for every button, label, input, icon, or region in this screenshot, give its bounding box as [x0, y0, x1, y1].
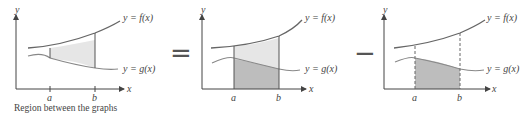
area-between-curves-diagram: y x a b y = f(x) y = g(x) y x a b y = f(…: [0, 0, 532, 119]
f-label: y = f(x): [122, 12, 154, 24]
f-label: y = f(x): [486, 12, 518, 24]
curve-f: [28, 21, 120, 48]
minus-sign: −: [354, 38, 376, 68]
a-label: a: [231, 92, 236, 103]
panel-area-under-f: [202, 15, 306, 89]
b-label: b: [457, 92, 462, 103]
b-label: b: [276, 92, 281, 103]
a-label: a: [47, 92, 52, 103]
f-label: y = f(x): [304, 12, 336, 24]
panel-area-under-g: [384, 15, 490, 89]
b-label: b: [92, 92, 97, 103]
x-axis-label: x: [126, 83, 132, 94]
x-axis-label: x: [491, 83, 497, 94]
g-label: y = g(x): [304, 63, 338, 75]
caption: Region between the graphs: [14, 103, 117, 113]
g-label: y = g(x): [122, 63, 156, 75]
x-axis-label: x: [308, 83, 314, 94]
equals-sign: =: [170, 38, 192, 68]
y-axis-label: y: [14, 4, 20, 15]
y-axis-label: y: [200, 4, 206, 15]
g-label: y = g(x): [486, 63, 520, 75]
panel-region-between: [16, 15, 124, 92]
a-label: a: [412, 92, 417, 103]
y-axis-label: y: [382, 4, 388, 15]
